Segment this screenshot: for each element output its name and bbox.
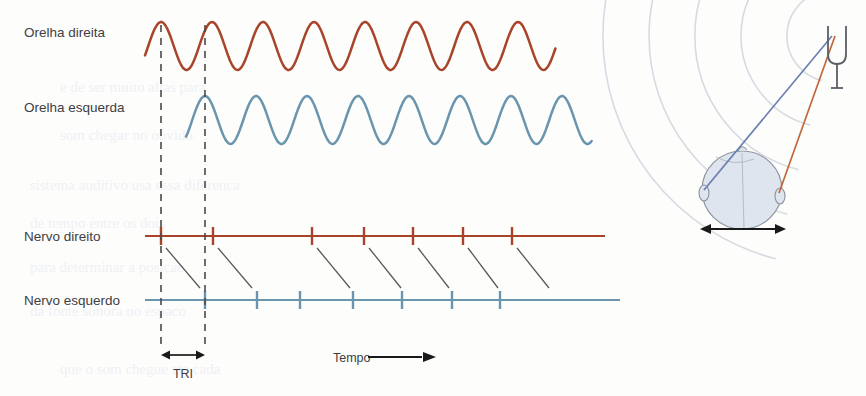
ghost-line: que o som chegue ate cada: [60, 361, 221, 377]
sound-arc: [695, 0, 799, 170]
label-right-ear: Orelha direita: [24, 25, 106, 40]
waveform-plot: Orelha direita Orelha esquerda Nervo dir…: [24, 22, 620, 381]
ghost-line: sistema auditivo usa essa diferenca: [30, 177, 240, 193]
path-to-right-ear: [779, 36, 835, 193]
left-ear: [699, 185, 709, 201]
sound-arc: [741, 0, 810, 125]
time-axis-arrow: Tempo: [333, 351, 436, 365]
ghost-line: som chegar no ouvido: [60, 127, 193, 143]
label-itd: TRI: [173, 367, 193, 381]
head-from-above: [699, 147, 785, 229]
spike-train-right-nerve: [145, 227, 605, 245]
ghost-line: e de ser muito altas para: [60, 79, 206, 95]
label-right-nerve: Nervo direito: [24, 229, 101, 244]
binaural-itd-diagram: e de ser muito altas para som chegar no …: [0, 0, 866, 396]
delay-connector: [418, 248, 449, 288]
delay-connector: [369, 248, 401, 288]
delay-connector: [517, 248, 549, 288]
delay-connector: [468, 248, 498, 288]
delay-connector: [317, 248, 350, 288]
tuning-fork-icon: [828, 26, 846, 88]
label-time: Tempo: [333, 351, 371, 365]
sound-wave-arcs: [603, 0, 822, 259]
waveform-left-ear: [186, 96, 592, 144]
sound-source-scene: [603, 0, 846, 259]
label-left-ear: Orelha esquerda: [24, 100, 125, 115]
delay-connector: [218, 248, 252, 288]
spike-train-left-nerve: [145, 291, 620, 309]
page-bleed-through: e de ser muito altas para som chegar no …: [30, 79, 240, 377]
nerve-delay-connectors: [166, 248, 549, 288]
label-left-nerve: Nervo esquerdo: [24, 293, 120, 308]
waveform-right-ear: [145, 22, 555, 70]
